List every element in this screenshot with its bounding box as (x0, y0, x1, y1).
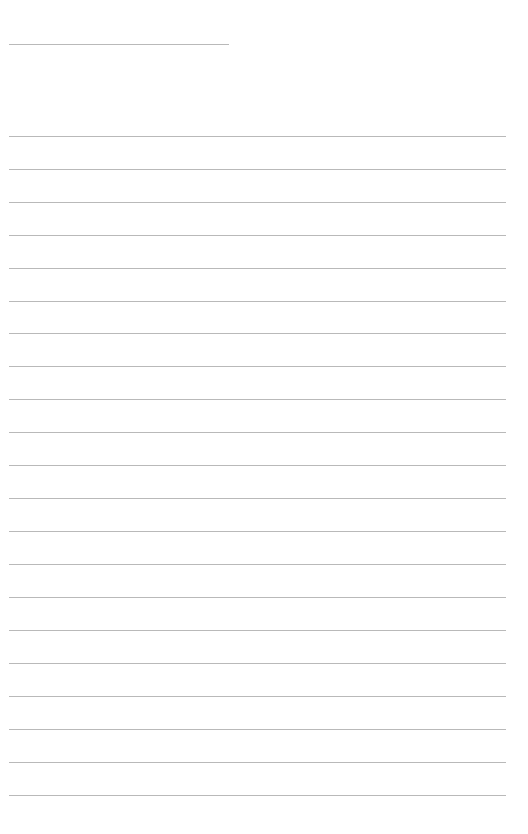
writing-area[interactable] (9, 120, 506, 810)
ruled-page (0, 0, 528, 834)
header-rule (9, 44, 229, 45)
